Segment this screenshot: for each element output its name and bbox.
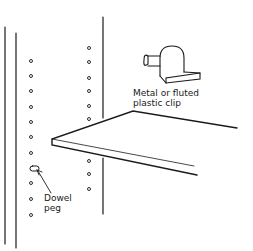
- shelf-support-diagram: Metal or fluted plastic clip Dowel peg: [0, 0, 253, 251]
- clip-label-line2: plastic clip: [133, 98, 181, 108]
- shelf: [52, 111, 237, 175]
- diagram-drawing: [0, 0, 253, 251]
- clip-label-line1: Metal or fluted: [133, 88, 199, 98]
- metal-clip-icon: [144, 46, 200, 83]
- peg-leader-line: [38, 171, 51, 193]
- peg-label-line2: peg: [44, 203, 61, 213]
- shelf-holes-front: [30, 60, 33, 217]
- peg-label-line1: Dowel: [44, 193, 72, 203]
- shelf-holes-back: [88, 47, 91, 191]
